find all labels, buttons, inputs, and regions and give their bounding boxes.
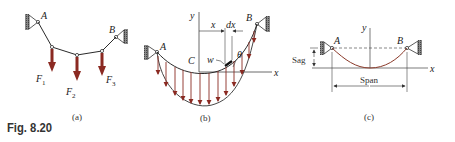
axis-x-label: x [429,63,435,74]
axis-y-label: y [361,22,367,33]
force-arrow-f2-icon [73,57,81,81]
pin-support-a-icon [25,14,40,30]
label-f3: F3 [105,74,116,88]
label-b: B [397,35,403,46]
dim-dx-label: dx [226,19,236,30]
panel-a: A B F1 F2 F3 (a) [25,10,128,122]
panel-b-label: (b) [200,113,211,123]
figure-caption: Fig. 8.20 [7,121,52,135]
distributed-load-arrows [158,31,254,104]
pin-support-a-icon [144,45,159,60]
panel-c-label: (c) [364,112,374,122]
panel-a-label: (a) [72,112,82,122]
angle-theta-label: θ [237,49,242,60]
dim-x-label: x [210,19,216,30]
panel-c: A B y x Sag Span (c) [292,22,435,122]
load-w-label: w [207,54,214,65]
pin-support-b-icon [255,16,270,32]
label-a: A [40,10,48,21]
force-arrow-f3-icon [98,53,106,76]
figure-canvas: A B F1 F2 F3 (a) [0,0,455,142]
panel-b: A B C y x x dx w θ (b) [144,10,279,123]
force-arrow-f1-icon [48,49,56,72]
label-b: B [246,12,252,23]
label-f2: F2 [65,86,76,100]
axis-x-label: x [273,67,279,78]
label-a: A [159,41,167,52]
label-a: A [333,35,341,46]
sag-label: Sag [292,55,306,65]
label-b: B [109,24,115,35]
span-label: Span [360,75,379,85]
axis-y-label: y [189,10,195,21]
pin-support-a-icon [320,41,334,55]
pin-support-b-icon [114,29,128,44]
pin-support-b-icon [405,40,422,55]
label-c: C [188,55,195,66]
label-f1: F1 [35,73,46,87]
